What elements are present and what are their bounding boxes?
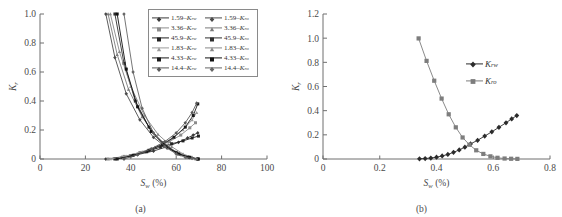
svg-text:1.0: 1.0 (24, 9, 36, 19)
svg-text:0.4: 0.4 (431, 163, 443, 173)
svg-text:0.4: 0.4 (307, 106, 319, 116)
svg-text:0: 0 (38, 163, 43, 173)
svg-text:40: 40 (126, 163, 136, 173)
svg-text:0.2: 0.2 (374, 163, 386, 173)
svg-text:Kr: Kr (291, 82, 302, 92)
legend-label: 1.83–Krw (171, 44, 197, 53)
legend-label: 14.4–Krw (171, 64, 197, 73)
svg-text:60: 60 (171, 163, 181, 173)
panel-a-caption: (a) (0, 204, 281, 214)
legend-item: Krw (466, 58, 498, 70)
panel-a: 02040608010000.20.40.60.81.0Sw (%)Kr 1.5… (0, 0, 281, 217)
panel-a-legend: 1.59–Krw1.59–Kro3.36–Krw3.36–Kro45.9–Krw… (148, 9, 258, 77)
svg-text:0.8: 0.8 (544, 163, 556, 173)
legend-marker-icon (466, 60, 483, 68)
legend-label: 1.59–Kro (224, 14, 249, 23)
legend-label: Kro (485, 77, 497, 86)
svg-text:0.6: 0.6 (307, 82, 319, 92)
legend-label: 3.36–Krw (171, 24, 197, 33)
legend-marker-icon (152, 64, 169, 72)
legend-item: Kro (466, 75, 498, 87)
legend-label: 3.36–Kro (224, 24, 249, 33)
svg-text:0: 0 (321, 163, 326, 173)
svg-text:0.6: 0.6 (24, 67, 36, 77)
svg-text:0.8: 0.8 (307, 58, 319, 68)
legend-marker-icon (466, 77, 483, 85)
svg-text:Kr: Kr (8, 82, 19, 92)
legend-label: 1.83–Kro (224, 44, 249, 53)
svg-text:0.4: 0.4 (24, 96, 36, 106)
legend-label: 4.33–Kro (224, 54, 249, 63)
legend-label: 45.9–Krw (171, 34, 197, 43)
svg-text:Sw (%): Sw (%) (424, 178, 450, 189)
svg-text:20: 20 (81, 163, 91, 173)
svg-text:0.6: 0.6 (487, 163, 499, 173)
svg-text:Sw (%): Sw (%) (141, 178, 167, 189)
panel-b-caption: (b) (281, 204, 562, 214)
legend-item: 14.4–Krw (152, 63, 200, 73)
svg-text:0.8: 0.8 (24, 38, 36, 48)
panel-b-plot: 00.20.40.60.800.20.40.60.81.01.2Sw (%)Kr (281, 0, 562, 217)
svg-text:1.2: 1.2 (307, 9, 319, 19)
svg-text:100: 100 (260, 163, 275, 173)
legend-label: 4.33–Krw (171, 54, 197, 63)
svg-text:0.2: 0.2 (307, 130, 319, 140)
svg-text:1.0: 1.0 (307, 34, 319, 44)
svg-text:0: 0 (314, 154, 319, 164)
legend-label: 14.4–Kro (224, 64, 249, 73)
panel-b-legend: KrwKro (466, 58, 498, 87)
panel-b: 00.20.40.60.800.20.40.60.81.01.2Sw (%)Kr… (281, 0, 562, 217)
svg-text:80: 80 (217, 163, 227, 173)
svg-text:0: 0 (31, 154, 36, 164)
legend-label: 45.9–Kro (224, 34, 249, 43)
figure-container: 02040608010000.20.40.60.81.0Sw (%)Kr 1.5… (0, 0, 562, 217)
svg-text:0.2: 0.2 (24, 125, 36, 135)
legend-label: 1.59–Krw (171, 14, 197, 23)
legend-marker-icon (205, 64, 222, 72)
legend-item: 14.4–Kro (205, 63, 253, 73)
legend-label: Krw (485, 60, 498, 69)
